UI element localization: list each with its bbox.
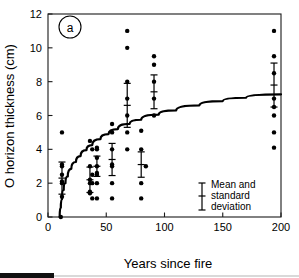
panel-label-badge: a [59, 16, 81, 38]
y-axis-ticks [48, 14, 53, 217]
data-point [95, 145, 99, 149]
data-point [95, 181, 99, 185]
legend: Mean andstandarddeviation [199, 179, 256, 212]
figure-panel-a: 050100150200 024681012 a Mean andstandar… [0, 0, 299, 278]
x-tick-label-100: 100 [155, 221, 173, 233]
data-point [95, 196, 99, 200]
data-point [125, 113, 129, 117]
data-point [110, 130, 114, 134]
error-bar-icon [199, 183, 206, 210]
y-tick-label-2: 2 [36, 177, 42, 189]
y-tick-label-4: 4 [36, 143, 42, 155]
data-point [110, 181, 114, 185]
data-point [95, 156, 99, 160]
data-point [152, 63, 156, 67]
y-tick-label-12: 12 [30, 8, 42, 20]
data-point [60, 195, 64, 199]
data-point [125, 79, 129, 83]
data-point [60, 173, 64, 177]
x-tick-label-0: 0 [45, 221, 51, 233]
data-point [95, 171, 99, 175]
data-point [152, 96, 156, 100]
y-tick-label-0: 0 [36, 211, 42, 223]
data-point [95, 164, 99, 168]
data-point [272, 54, 276, 58]
data-point [125, 147, 129, 151]
scatter-plot: 050100150200 024681012 a Mean andstandar… [0, 0, 299, 278]
x-tick-label-200: 200 [272, 221, 290, 233]
data-point [272, 130, 276, 134]
y-tick-label-8: 8 [36, 76, 42, 88]
legend-line: standard [211, 190, 250, 201]
data-point [125, 29, 129, 33]
data-point [88, 189, 92, 193]
data-point [90, 147, 94, 151]
data-point [152, 54, 156, 58]
data-point [272, 96, 276, 100]
data-point [125, 46, 129, 50]
data-point [272, 105, 276, 109]
data-point [90, 173, 94, 177]
data-point [88, 139, 92, 143]
data-point [272, 71, 276, 75]
data-point [152, 113, 156, 117]
legend-line: deviation [211, 201, 251, 212]
data-point [110, 147, 114, 151]
panel-label-text: a [67, 21, 74, 35]
data-point [272, 145, 276, 149]
data-point [60, 162, 64, 166]
error-bar [138, 152, 145, 177]
x-axis-ticks [48, 213, 281, 218]
data-point [90, 196, 94, 200]
footer-black-bar [0, 273, 54, 278]
y-tick-label-6: 6 [36, 110, 42, 122]
y-axis-title: O horizon thickness (cm) [2, 44, 17, 188]
x-tick-label-50: 50 [100, 221, 112, 233]
data-point [139, 181, 143, 185]
footer-rule [54, 275, 299, 277]
data-point [60, 130, 64, 134]
legend-line: Mean and [211, 179, 255, 190]
x-axis-tick-labels: 050100150200 [45, 221, 290, 233]
error-bar [124, 83, 131, 127]
data-point [139, 196, 143, 200]
data-point [125, 96, 129, 100]
data-point [139, 129, 143, 133]
data-point [144, 164, 148, 168]
data-point [139, 147, 143, 151]
data-point [110, 162, 114, 166]
data-point [272, 29, 276, 33]
data-point [88, 164, 92, 168]
y-tick-label-10: 10 [30, 42, 42, 54]
y-axis-tick-labels: 024681012 [30, 8, 42, 223]
data-point [60, 179, 64, 183]
data-point [272, 113, 276, 117]
x-axis-title: Years since fire [124, 256, 212, 271]
data-point [59, 215, 63, 219]
data-point [90, 181, 94, 185]
data-point [125, 130, 129, 134]
x-tick-label-150: 150 [214, 221, 232, 233]
data-point [110, 122, 114, 126]
data-point [110, 196, 114, 200]
data-point [152, 79, 156, 83]
